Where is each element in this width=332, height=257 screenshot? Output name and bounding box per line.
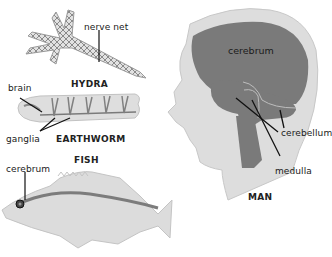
label-ganglia: ganglia: [6, 134, 40, 144]
label-medulla: medulla: [275, 166, 312, 176]
label-nerve-net: nerve net: [84, 22, 128, 32]
title-man: MAN: [248, 192, 272, 202]
hydra-illustration: [26, 10, 146, 78]
label-brain: brain: [8, 83, 32, 93]
title-hydra: HYDRA: [71, 79, 108, 89]
title-earthworm: EARTHWORM: [56, 134, 125, 144]
label-man-cerebrum: cerebrum: [228, 45, 274, 56]
title-fish: FISH: [74, 155, 99, 165]
fish-illustration: [2, 172, 172, 248]
label-fish-cerebrum: cerebrum: [6, 164, 50, 174]
label-cerebellum: cerebellum: [281, 128, 332, 138]
